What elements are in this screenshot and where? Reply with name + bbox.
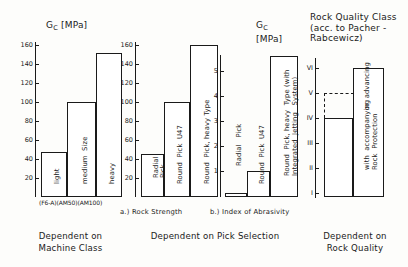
bar-light: light — [41, 152, 67, 197]
tick-120 — [35, 83, 39, 84]
tick-label: 160 — [112, 42, 133, 49]
caption-machine-class: Dependent on Machine Class — [18, 231, 123, 254]
machine-code-labels: (F6-A)(AM50)(AM100) — [39, 199, 102, 206]
bar-radial-pick: Radial Pick — [141, 154, 164, 197]
y-axis-2 — [135, 42, 136, 197]
tick-label: IV — [301, 115, 313, 122]
tick-160 — [35, 45, 39, 46]
bar-label-round-pick-heavy-jetting: Round Pick, heavy Type (with Integrated … — [283, 69, 299, 176]
tick-label: 80 — [112, 118, 133, 125]
tick-20 — [135, 178, 139, 179]
bar-label-radial-pick: Radial Pick — [236, 124, 244, 166]
y-axis-3 — [220, 55, 221, 197]
bar-label-round-pick-u47: Round Pick U47 — [177, 126, 185, 185]
tick-60 — [35, 140, 39, 141]
tick-VI — [315, 68, 319, 69]
gc-unit: [MPa] — [58, 20, 87, 30]
panel-index-of-abrasivity: Index of Abrasivity (acc. to Schimazek) … — [205, 0, 315, 267]
roadheader-parameter-figure: GC [MPa] 160 140 120 100 80 60 40 20 lig… — [0, 0, 408, 267]
tick-V — [315, 93, 319, 94]
tick-160 — [135, 45, 139, 46]
bar-round-pick-u47: Round Pick U47 — [164, 102, 190, 197]
bar-round-pick-u47-abrasivity: Round Pick U47 — [247, 171, 270, 197]
caption-pick-selection: Dependent on Pick Selection — [125, 231, 305, 243]
tick-label: VI — [301, 65, 313, 72]
subcaption-index-of-abrasivity: b.) Index of Abrasivity — [210, 208, 289, 216]
tick-label: 5 — [207, 68, 218, 75]
tick-label: 100 — [12, 99, 33, 106]
tick-80 — [35, 121, 39, 122]
tick-100 — [35, 102, 39, 103]
bar-label-rock-protection: with accompanying Rock Protection — [364, 100, 379, 170]
subcaption-rock-strength: a.) Rock Strength — [120, 208, 182, 216]
tick-label: 1 — [207, 168, 218, 175]
tick-label: I — [301, 190, 313, 197]
tick-40 — [35, 159, 39, 160]
tick-label: V — [301, 90, 313, 97]
tick-label: 80 — [12, 118, 33, 125]
tick-100 — [135, 102, 139, 103]
y-axis-4 — [315, 58, 316, 198]
bar-radial-pick-abrasivity: Radial Pick — [225, 193, 247, 197]
tick-label: III — [301, 140, 313, 147]
tick-label: II — [301, 165, 313, 172]
tick-140 — [35, 64, 39, 65]
panel-1-title: GC [MPa] — [46, 20, 87, 34]
tick-2 — [220, 146, 224, 147]
y-axis-1 — [35, 42, 36, 197]
panel-rock-quality-class: Rock Quality Class (acc. to Pacher - Rab… — [300, 0, 408, 267]
tick-label: 40 — [112, 156, 133, 163]
bar-label-advancing: or advancing — [364, 62, 372, 110]
dashed-extension-left — [324, 93, 325, 118]
bar-with-rock-protection — [324, 118, 353, 197]
tick-label: 20 — [12, 175, 33, 182]
tick-IV — [315, 118, 319, 119]
tick-40 — [135, 159, 139, 160]
tick-label: 40 — [12, 156, 33, 163]
bar-label-medium: medium Size — [82, 137, 90, 184]
tick-label: 3 — [207, 118, 218, 125]
tick-5 — [220, 71, 224, 72]
tick-60 — [135, 140, 139, 141]
tick-140 — [135, 64, 139, 65]
tick-II — [315, 168, 319, 169]
tick-label: 2 — [207, 143, 218, 150]
tick-80 — [135, 121, 139, 122]
tick-label: 160 — [12, 42, 33, 49]
tick-20 — [35, 178, 39, 179]
bar-label-light: light — [54, 169, 62, 185]
caption-rock-quality: Dependent on Rock Quality — [305, 231, 405, 254]
tick-I — [315, 193, 319, 194]
tick-3 — [220, 121, 224, 122]
tick-label: 4 — [207, 93, 218, 100]
tick-1 — [220, 171, 224, 172]
tick-120 — [135, 83, 139, 84]
bar-medium: medium Size — [67, 102, 96, 197]
tick-label: 140 — [112, 61, 133, 68]
panel-4-title: Rock Quality Class (acc. to Pacher - Rab… — [310, 12, 397, 44]
bar-label-round-pick-u47: Round Pick U47 — [259, 126, 267, 185]
panel-machine-class: GC [MPa] 160 140 120 100 80 60 40 20 lig… — [0, 0, 128, 267]
tick-label: 140 — [12, 61, 33, 68]
tick-label: 20 — [112, 175, 133, 182]
tick-III — [315, 143, 319, 144]
tick-label: 120 — [112, 80, 133, 87]
tick-label: 120 — [12, 80, 33, 87]
tick-label: 60 — [112, 137, 133, 144]
bar-round-pick-heavy-abrasivity: Round Pick, heavy Type (with Integrated … — [270, 56, 298, 197]
tick-label: 100 — [112, 99, 133, 106]
tick-4 — [220, 96, 224, 97]
tick-label: 60 — [12, 137, 33, 144]
dashed-extension-line — [324, 93, 354, 94]
